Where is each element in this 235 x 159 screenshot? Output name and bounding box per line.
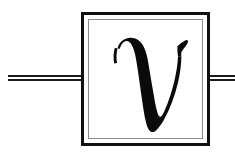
diagram-canvas: v xyxy=(0,0,235,159)
output-wire xyxy=(209,76,235,80)
input-wire xyxy=(8,76,82,80)
circuit-diagram xyxy=(0,0,235,159)
